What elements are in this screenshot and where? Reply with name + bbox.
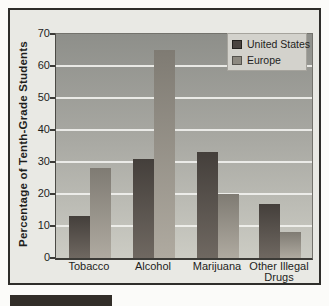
y-axis: 010203040506070 <box>10 33 50 257</box>
y-tick-mark <box>50 225 55 227</box>
figure-panel: Percentage of Tenth-Grade Students 01020… <box>8 8 321 285</box>
bar-europe-marijuana <box>218 194 239 258</box>
bar-group-tobacco <box>69 34 111 258</box>
bar-united-states-marijuana <box>197 152 218 258</box>
y-tick-label: 40 <box>10 122 50 136</box>
y-tick-mark <box>50 161 55 163</box>
legend-swatch-europe <box>232 56 242 65</box>
x-axis-labels: TobaccoAlcoholMarijuanaOther Illegal Dru… <box>10 261 319 289</box>
bar-europe-alcohol <box>154 50 175 258</box>
y-tick-label: 60 <box>10 58 50 72</box>
y-tick-mark <box>50 97 55 99</box>
bar-united-states-alcohol <box>133 159 154 258</box>
y-tick-label: 50 <box>10 90 50 104</box>
y-tick-label: 30 <box>10 154 50 168</box>
caption-box <box>10 295 112 306</box>
y-tick-mark <box>50 257 55 259</box>
bar-united-states-tobacco <box>69 216 90 258</box>
legend-swatch-united-states <box>232 40 242 49</box>
legend-label-europe: Europe <box>247 54 281 66</box>
bar-europe-tobacco <box>90 168 111 258</box>
bar-europe-other-illegal-drugs <box>280 232 301 258</box>
y-tick-label: 10 <box>10 218 50 232</box>
y-tick-label: 70 <box>10 26 50 40</box>
plot-area: United StatesEurope <box>55 33 313 260</box>
y-tick-mark <box>50 33 55 35</box>
legend-label-united-states: United States <box>247 38 310 50</box>
y-tick-mark <box>50 129 55 131</box>
legend-item-united-states: United States <box>232 38 302 50</box>
x-category-label-other-illegal-drugs: Other Illegal Drugs <box>240 261 318 283</box>
y-tick-mark <box>50 193 55 195</box>
y-tick-label: 20 <box>10 186 50 200</box>
bar-united-states-other-illegal-drugs <box>259 204 280 258</box>
legend: United StatesEurope <box>227 33 307 71</box>
legend-item-europe: Europe <box>232 54 302 66</box>
y-tick-mark <box>50 65 55 67</box>
bar-group-alcohol <box>133 34 175 258</box>
